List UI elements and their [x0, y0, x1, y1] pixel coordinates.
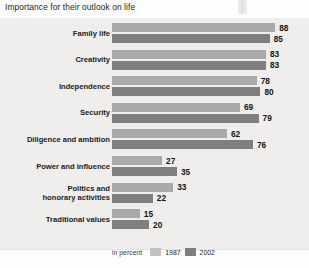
- bar-value-label: 76: [257, 140, 266, 150]
- bar-group: Diligence and ambition6276: [0, 128, 309, 151]
- bar-2002: [112, 87, 260, 96]
- bar-1987: [112, 209, 140, 218]
- category-label: Family life: [5, 29, 110, 38]
- bar-row: 62: [112, 129, 267, 138]
- category-label: Independence: [5, 82, 110, 91]
- bar-value-label: 78: [261, 76, 270, 86]
- legend-label-2002: 2002: [200, 249, 215, 256]
- bar-row: 20: [112, 220, 189, 229]
- bar-1987: [112, 76, 257, 85]
- legend-label-1987: 1987: [165, 249, 180, 256]
- bar-group: Independence7880: [0, 75, 309, 98]
- bar-group: Family life8885: [0, 22, 309, 45]
- bar-group: Creativity8383: [0, 49, 309, 72]
- chart-title: Importance for their outlook on life: [5, 2, 135, 12]
- bar-value-label: 15: [144, 209, 153, 219]
- bar-row: 76: [112, 140, 293, 149]
- bar-2002: [112, 220, 149, 229]
- bar-2002: [112, 140, 253, 149]
- bar-value-label: 83: [270, 49, 279, 59]
- bar-value-label: 79: [263, 113, 272, 123]
- legend-unit-label: in percent: [112, 249, 142, 256]
- bar-1987: [112, 23, 275, 32]
- bar-row: 85: [112, 34, 309, 43]
- category-label: Politics andhonorary activities: [5, 184, 110, 202]
- bar-value-label: 62: [231, 129, 240, 139]
- bar-1987: [112, 50, 266, 59]
- bar-row: 79: [112, 114, 299, 123]
- bar-value-label: 69: [244, 102, 253, 112]
- decorative-mark-icon: [238, 0, 247, 14]
- chart-root: Importance for their outlook on life Fam…: [0, 0, 309, 268]
- bar-group: Power and influence2735: [0, 155, 309, 178]
- bar-row: 83: [112, 61, 306, 70]
- category-label: Security: [5, 109, 110, 118]
- bar-value-label: 80: [264, 87, 273, 97]
- bar-row: 15: [112, 209, 180, 218]
- bar-row: 69: [112, 103, 280, 112]
- bar-2002: [112, 194, 153, 203]
- bar-1987: [112, 129, 227, 138]
- bar-2002: [112, 167, 177, 176]
- bar-value-label: 33: [177, 182, 186, 192]
- bar-row: 80: [112, 87, 300, 96]
- legend-swatch-1987: [150, 248, 161, 256]
- bar-1987: [112, 156, 162, 165]
- bar-value-label: 35: [181, 167, 190, 177]
- bar-value-label: 20: [153, 220, 162, 230]
- bar-group: Traditional values1520: [0, 208, 309, 231]
- bar-group: Politics andhonorary activities3322: [0, 182, 309, 205]
- category-label-line: honorary activities: [5, 193, 110, 202]
- bar-value-label: 85: [274, 34, 283, 44]
- bar-value-label: 83: [270, 60, 279, 70]
- bar-value-label: 27: [166, 156, 175, 166]
- legend-swatch-2002: [185, 248, 196, 256]
- category-label: Traditional values: [5, 215, 110, 224]
- bar-row: 88: [112, 23, 309, 32]
- bar-row: 27: [112, 156, 202, 165]
- bar-group: Security6979: [0, 102, 309, 125]
- bar-row: 33: [112, 183, 213, 192]
- bar-value-label: 88: [279, 23, 288, 33]
- bar-2002: [112, 114, 259, 123]
- category-label: Creativity: [5, 56, 110, 65]
- bar-chart-area: Family life8885Creativity8383Independenc…: [0, 18, 309, 268]
- bar-row: 22: [112, 194, 193, 203]
- category-label: Power and influence: [5, 162, 110, 171]
- bar-value-label: 22: [157, 193, 166, 203]
- bar-1987: [112, 183, 173, 192]
- bar-row: 83: [112, 50, 306, 59]
- bar-row: 78: [112, 76, 297, 85]
- bar-2002: [112, 61, 266, 70]
- bar-1987: [112, 103, 240, 112]
- chart-legend: in percent 1987 2002: [112, 248, 215, 256]
- category-label-line: Politics and: [5, 184, 110, 193]
- bar-row: 35: [112, 167, 217, 176]
- category-label: Diligence and ambition: [5, 136, 110, 145]
- bar-2002: [112, 34, 270, 43]
